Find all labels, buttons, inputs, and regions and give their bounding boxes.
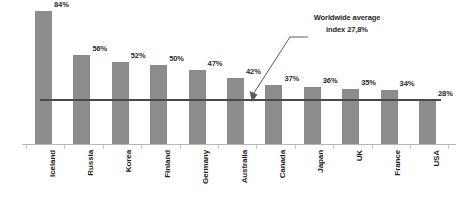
data-label-iceland: 84% xyxy=(54,0,69,9)
category-label-iceland: Iceland xyxy=(48,150,57,177)
axis-tick xyxy=(103,145,104,149)
category-label-finland: Finland xyxy=(163,150,172,178)
category-label-japan: Japan xyxy=(316,150,325,173)
callout-line-2: index 27,8% xyxy=(291,24,403,36)
data-label-russia: 56% xyxy=(92,44,107,53)
data-label-germany: 47% xyxy=(208,59,223,68)
axis-tick xyxy=(295,145,296,149)
axis-tick xyxy=(256,145,257,149)
axis-tick xyxy=(180,145,181,149)
data-label-usa: 28% xyxy=(438,89,453,98)
reference-line-worldwide-average xyxy=(40,99,441,101)
axis-tick xyxy=(410,145,411,149)
category-label-canada: Canada xyxy=(278,150,287,178)
data-label-canada: 37% xyxy=(284,74,299,83)
data-label-france: 34% xyxy=(400,79,415,88)
category-label-australia: Australia xyxy=(240,150,249,183)
callout-line-1: Worldwide average xyxy=(291,12,403,24)
category-label-france: France xyxy=(393,150,402,176)
category-label-usa: USA xyxy=(432,150,441,167)
category-label-uk: UK xyxy=(355,150,364,161)
plot-area: 84%56%52%50%47%42%37%36%35%34%28% Icelan… xyxy=(0,0,467,201)
data-label-finland: 50% xyxy=(169,54,184,63)
axis-tick xyxy=(141,145,142,149)
bar-germany xyxy=(189,70,206,144)
axis-tick xyxy=(448,145,449,149)
bar-korea xyxy=(112,62,129,144)
data-label-australia: 42% xyxy=(246,67,261,76)
category-axis-line xyxy=(22,144,456,145)
bar-chart: 84%56%52%50%47%42%37%36%35%34%28% Icelan… xyxy=(0,0,467,201)
bar-iceland xyxy=(35,11,52,144)
category-label-germany: Germany xyxy=(201,150,210,184)
bar-finland xyxy=(150,65,167,144)
data-label-korea: 52% xyxy=(131,51,146,60)
category-label-russia: Russia xyxy=(86,150,95,176)
data-label-uk: 35% xyxy=(361,78,376,87)
category-label-korea: Korea xyxy=(124,150,133,172)
axis-tick xyxy=(372,145,373,149)
bar-canada xyxy=(265,85,282,144)
axis-tick xyxy=(333,145,334,149)
callout-text: Worldwide average index 27,8% xyxy=(291,12,403,36)
bar-usa xyxy=(419,100,436,144)
bar-japan xyxy=(304,87,321,144)
axis-tick xyxy=(26,145,27,149)
bar-uk xyxy=(342,89,359,144)
axis-tick xyxy=(218,145,219,149)
bar-australia xyxy=(227,78,244,144)
data-label-japan: 36% xyxy=(323,76,338,85)
axis-tick xyxy=(64,145,65,149)
